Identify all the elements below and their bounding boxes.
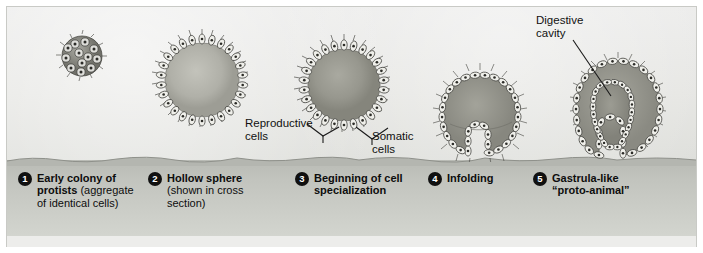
caption-stage-4-line1: Infolding xyxy=(428,172,548,184)
caption-stage-3: 3 Beginning of cell specialization xyxy=(295,172,425,197)
organism-stage-2-hollow-sphere xyxy=(148,28,256,136)
figure-base-strip xyxy=(7,236,696,247)
caption-stage-1-rest: protists (aggregate of identical cells) xyxy=(18,184,143,209)
caption-stage-2: 2 Hollow sphere (shown in cross section) xyxy=(148,172,268,209)
caption-stage-3-bold: specialization xyxy=(314,184,386,196)
caption-stage-3-line1: Beginning of cell xyxy=(295,172,425,184)
stage-badge-1: 1 xyxy=(18,172,32,186)
organism-stage-5-gastrula xyxy=(563,52,673,162)
caption-stage-4: 4 Infolding xyxy=(428,172,548,184)
caption-stage-5: 5 Gastrula-like “proto-animal” xyxy=(533,172,663,197)
caption-stage-3-rest: specialization xyxy=(295,184,425,196)
organism-stage-4-infolding xyxy=(428,62,532,162)
caption-stage-1-line1: Early colony of xyxy=(18,172,143,184)
callout-reproductive-cells: Reproductive cells xyxy=(245,117,313,142)
caption-stage-2-regular: (shown in cross section) xyxy=(167,184,243,208)
stage-badge-2: 2 xyxy=(148,172,162,186)
caption-stage-5-line1: Gastrula-like xyxy=(533,172,663,184)
caption-stage-2-line1: Hollow sphere xyxy=(148,172,268,184)
stage-badge-5: 5 xyxy=(533,172,547,186)
stage-badge-4: 4 xyxy=(428,172,442,186)
callout-digestive-cavity: Digestive cavity xyxy=(536,14,583,39)
stage-badge-3: 3 xyxy=(295,172,309,186)
caption-stage-5-rest: “proto-animal” xyxy=(533,184,663,196)
caption-stage-1: 1 Early colony of protists (aggregate of… xyxy=(18,172,143,209)
caption-stage-5-bold: “proto-animal” xyxy=(552,184,630,196)
caption-stage-2-rest: (shown in cross section) xyxy=(148,184,268,209)
callout-somatic-cells: Somatic cells xyxy=(372,130,414,155)
multicellularity-evolution-figure: Reproductive cells Somatic cells Digesti… xyxy=(0,0,703,253)
caption-stage-1-bold: protists xyxy=(37,184,77,196)
organism-stage-1-colony xyxy=(55,30,110,85)
